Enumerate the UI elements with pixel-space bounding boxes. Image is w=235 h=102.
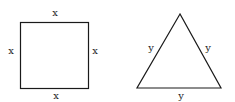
triangle-figure: y y y bbox=[137, 14, 221, 101]
triangle-label-left: y bbox=[147, 42, 154, 53]
square-figure: x x x x bbox=[8, 7, 98, 101]
triangle-label-right: y bbox=[204, 42, 211, 53]
shapes-diagram: x x x x y y y bbox=[0, 0, 235, 102]
square-shape bbox=[21, 23, 89, 89]
triangle-label-bottom: y bbox=[177, 90, 184, 101]
square-label-left: x bbox=[8, 45, 14, 56]
square-label-right: x bbox=[92, 45, 98, 56]
square-label-top: x bbox=[52, 7, 58, 18]
square-label-bottom: x bbox=[53, 90, 59, 101]
